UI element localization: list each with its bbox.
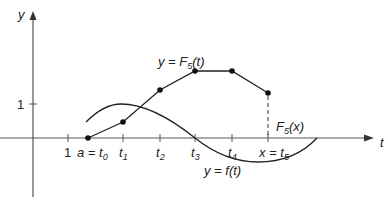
tick-label-t2: t2 [156, 145, 165, 162]
t-tick-label-1: 1 [64, 145, 71, 160]
y-tick-label-1: 1 [17, 97, 24, 112]
tick-label-t5: x = t5 [258, 145, 290, 162]
F5-curve-label: y = F5(t) [157, 54, 205, 71]
f-curve-label: y = f(t) [203, 163, 241, 178]
y-axis-arrow-icon [30, 11, 37, 20]
riemann-sum-diagram: y t 1 1 a = t0 t1 t2 t3 t4 x = t5 y = F5… [0, 0, 388, 201]
tick-label-t0: a = t0 [77, 145, 108, 162]
t-axis-arrow-icon [364, 135, 374, 142]
tick-label-t1: t1 [119, 145, 128, 162]
tick-label-t3: t3 [191, 145, 200, 162]
F5-value-label: F5(x) [276, 119, 304, 136]
y-axis-label: y [17, 7, 26, 22]
t-axis-label: t [380, 135, 385, 150]
